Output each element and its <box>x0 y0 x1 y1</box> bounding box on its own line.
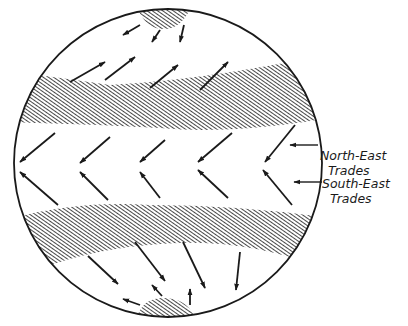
south-east-trades-arrow <box>263 170 292 205</box>
label-south-east-trades: South-East Trades <box>322 176 390 206</box>
label-north-east-trades: North-East Trades <box>320 148 386 178</box>
label-line: North-East <box>320 148 386 163</box>
polar-easterlies-south-arrow <box>123 299 140 305</box>
label-line: South-East <box>322 176 390 191</box>
south-east-trades-arrow <box>20 172 58 205</box>
label-line: Trades <box>322 191 390 206</box>
north-polar-cap <box>138 3 190 30</box>
westerlies-south-arrow <box>88 256 118 284</box>
polar-easterlies-north-arrow <box>152 30 160 42</box>
north-east-trades-arrow <box>265 125 295 162</box>
southern-high-pressure-belt <box>0 204 330 275</box>
south-east-trades-arrow <box>198 170 228 198</box>
westerlies-north-arrow <box>105 57 135 80</box>
westerlies-south-arrow <box>183 242 205 288</box>
polar-easterlies-south-arrow <box>152 285 162 296</box>
globe-outline <box>14 9 322 317</box>
north-east-trades-arrow <box>198 133 232 162</box>
north-east-trades-arrow <box>20 133 55 162</box>
south-east-trades-arrow <box>140 172 160 198</box>
westerlies-south-arrow <box>236 252 240 290</box>
south-east-trades-arrow <box>80 172 108 200</box>
north-east-trades-arrow <box>140 140 165 162</box>
westerlies-south-arrow <box>135 242 165 281</box>
westerlies-north-arrow <box>70 62 105 82</box>
polar-easterlies-north-arrow <box>123 25 140 35</box>
north-east-trades-arrow <box>80 137 110 163</box>
northern-high-pressure-belt <box>0 58 330 130</box>
polar-easterlies-north-arrow <box>180 25 184 42</box>
